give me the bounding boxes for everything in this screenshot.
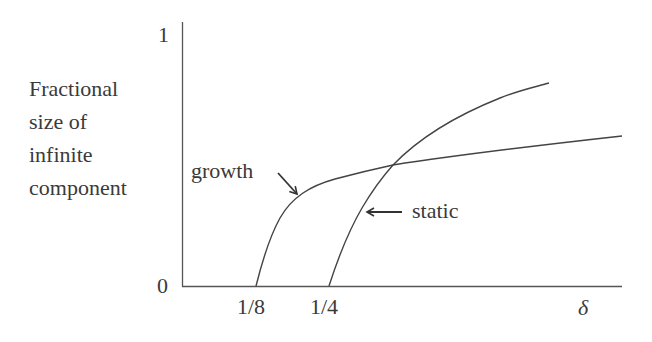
growth-arrow-icon [278,173,297,194]
static-curve [329,83,549,286]
growth-curve [256,136,622,286]
chart-plot [0,0,652,342]
